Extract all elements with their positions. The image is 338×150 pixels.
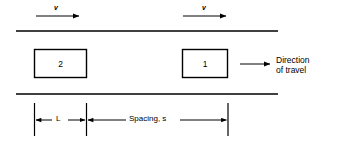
dimension-label-L: L: [56, 115, 60, 124]
traffic-spacing-figure: v v 2 1 Direction of travel L Spacing, s: [0, 0, 338, 150]
vehicle-box-1: [183, 50, 228, 78]
direction-of-travel-line1: Direction: [276, 55, 310, 65]
speed-label-left: v: [54, 4, 58, 12]
vehicle-box-2: [35, 50, 87, 78]
dimension-label-spacing: Spacing, s: [129, 115, 166, 124]
direction-of-travel-text: Direction of travel: [276, 55, 310, 76]
speed-label-right: v: [202, 4, 206, 12]
direction-of-travel-line2: of travel: [276, 65, 310, 75]
